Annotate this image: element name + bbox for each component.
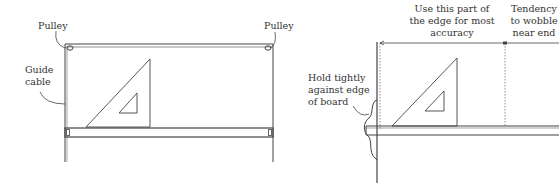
label-hold-line2: against edge — [308, 84, 370, 96]
label-guide-cable-line1: Guide — [25, 64, 53, 76]
left-board-figure — [40, 31, 275, 162]
label-hold-tightly: Hold tightly against edge of board — [308, 72, 370, 108]
set-square-triangle-closeup — [392, 58, 457, 126]
label-accuracy-line2: the edge for most — [402, 15, 502, 27]
label-wobble-line3: near end — [508, 27, 559, 39]
label-hold-line1: Hold tightly — [308, 72, 370, 84]
label-guide-cable-line2: cable — [25, 76, 53, 88]
set-square-triangle — [86, 59, 150, 127]
pulley-left-icon — [67, 46, 73, 50]
label-pulley-right: Pulley — [264, 20, 294, 32]
label-wobble-line2: to wobble — [508, 15, 559, 27]
label-pulley-left: Pulley — [38, 20, 68, 32]
label-wobble-line1: Tendency — [508, 3, 559, 15]
right-closeup-figure — [353, 41, 559, 183]
label-hold-line3: of board — [308, 96, 370, 108]
label-guide-cable: Guide cable — [25, 64, 53, 88]
label-accuracy-line1: Use this part of — [402, 3, 502, 15]
parallel-bar — [65, 128, 273, 137]
label-accuracy: Use this part of the edge for most accur… — [402, 3, 502, 39]
label-accuracy-line3: accuracy — [402, 27, 502, 39]
label-wobble: Tendency to wobble near end — [508, 3, 559, 39]
